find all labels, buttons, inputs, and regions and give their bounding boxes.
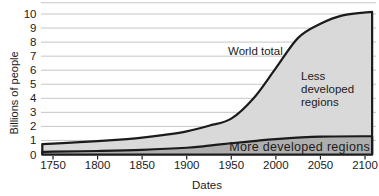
less-developed-regions-label: Less developed regions: [301, 70, 363, 109]
x-tick-label: 1850: [129, 159, 155, 171]
y-tick-label: 1: [30, 134, 36, 146]
y-tick-label: 9: [30, 22, 36, 34]
more-developed-regions-label: More developed regions: [229, 140, 370, 154]
x-tick-label: 1900: [174, 159, 200, 171]
y-tick-label: 6: [30, 64, 36, 76]
x-axis-title: Dates: [42, 179, 372, 192]
y-tick-label: 0: [30, 149, 36, 161]
world-total-label: World total: [228, 45, 283, 58]
y-tick-label: 7: [30, 50, 36, 62]
y-tick-label: 2: [30, 120, 36, 132]
y-tick-labels: 012345678910: [24, 8, 37, 161]
y-tick-label: 10: [24, 8, 37, 20]
x-tick-labels: 17501800185019001950200020502100: [40, 159, 378, 171]
x-tick-label: 2050: [308, 159, 334, 171]
x-tick-label: 1750: [40, 159, 66, 171]
y-tick-label: 5: [30, 78, 36, 90]
x-tick-label: 1950: [218, 159, 244, 171]
x-tick-label: 2100: [352, 159, 378, 171]
population-growth-figure: 17501800185019001950200020502100 0123456…: [0, 0, 379, 196]
y-tick-label: 4: [30, 92, 37, 104]
y-tick-label: 3: [30, 106, 36, 118]
y-axis-title: Billions of people: [8, 51, 21, 134]
y-tick-label: 8: [30, 36, 36, 48]
x-tick-label: 2000: [263, 159, 289, 171]
x-tick-label: 1800: [85, 159, 111, 171]
